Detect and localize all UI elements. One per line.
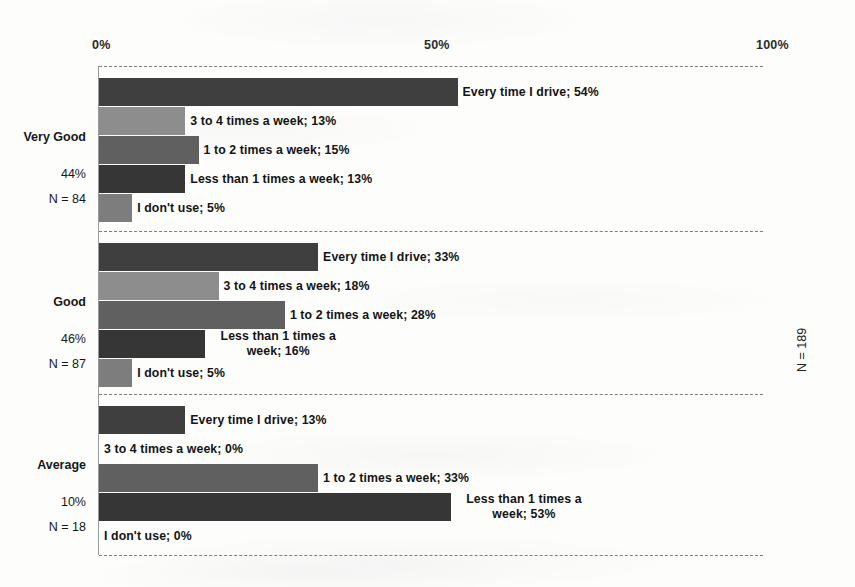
bar-row: 3 to 4 times a week; 0% <box>99 435 855 463</box>
bar[interactable] <box>99 406 185 434</box>
bar[interactable] <box>99 301 285 329</box>
bar-row: Every time I drive; 33% <box>99 243 855 271</box>
group-sample-size-label: N = 84 <box>8 190 86 208</box>
group-separator-line <box>99 394 763 395</box>
bar-value-label: Less than 1 times a week; 16% <box>205 329 344 360</box>
bar[interactable] <box>99 78 458 106</box>
x-axis-bottom-dashed-line <box>99 555 763 556</box>
group-share-label: 46% <box>8 330 86 348</box>
bar[interactable] <box>99 330 205 358</box>
bar[interactable] <box>99 165 185 193</box>
x-axis-tick-50: 50% <box>424 38 450 52</box>
x-axis-top-dashed-line <box>99 66 763 67</box>
bar[interactable] <box>99 272 219 300</box>
bar-row: 1 to 2 times a week; 28% <box>99 301 855 329</box>
bar-value-label: 1 to 2 times a week; 33% <box>318 471 469 485</box>
bar-value-label: 3 to 4 times a week; 0% <box>99 442 243 456</box>
group-sample-size-label: N = 18 <box>8 518 86 536</box>
x-axis-tick-100: 100% <box>756 38 789 52</box>
survey-bar-chart: 0% 50% 100% Very Good44%N = 84Every time… <box>0 0 855 587</box>
bar-row: I don't use; 0% <box>99 522 855 550</box>
bar-value-label: Less than 1 times a week; 13% <box>185 172 372 186</box>
bar-value-label: 3 to 4 times a week; 18% <box>219 279 370 293</box>
bar[interactable] <box>99 493 451 521</box>
bar-value-label: Less than 1 times a week; 53% <box>451 492 590 523</box>
group-share-label: 10% <box>8 493 86 511</box>
bar-value-label: I don't use; 5% <box>132 201 225 215</box>
bar-row: Less than 1 times a week; 16% <box>99 330 855 358</box>
bar[interactable] <box>99 243 318 271</box>
bar-row: Less than 1 times a week; 13% <box>99 165 855 193</box>
bar-value-label: Every time I drive; 13% <box>185 413 326 427</box>
bar-value-label: Every time I drive; 54% <box>458 85 599 99</box>
bar[interactable] <box>99 136 199 164</box>
total-sample-size-label: N = 189 <box>795 328 809 372</box>
x-axis-tick-labels: 0% 50% 100% <box>0 38 855 56</box>
bar[interactable] <box>99 464 318 492</box>
bar[interactable] <box>99 359 132 387</box>
group-separator-line <box>99 231 763 232</box>
bar-value-label: Every time I drive; 33% <box>318 250 459 264</box>
bar-row: 1 to 2 times a week; 15% <box>99 136 855 164</box>
bar-row: 3 to 4 times a week; 18% <box>99 272 855 300</box>
bar-row: 1 to 2 times a week; 33% <box>99 464 855 492</box>
bar-value-label: 1 to 2 times a week; 28% <box>285 308 436 322</box>
bar-value-label: I don't use; 5% <box>132 366 225 380</box>
bar-value-label: 1 to 2 times a week; 15% <box>199 143 350 157</box>
group-sample-size-label: N = 87 <box>8 355 86 373</box>
bar-value-label: 3 to 4 times a week; 13% <box>185 114 336 128</box>
bar-row: Every time I drive; 13% <box>99 406 855 434</box>
bar[interactable] <box>99 107 185 135</box>
group-share-label: 44% <box>8 165 86 183</box>
bar-row: Less than 1 times a week; 53% <box>99 493 855 521</box>
x-axis-tick-0: 0% <box>92 38 110 52</box>
group-name-label: Good <box>8 293 86 311</box>
bar-row: Every time I drive; 54% <box>99 78 855 106</box>
bar[interactable] <box>99 194 132 222</box>
bar-row: I don't use; 5% <box>99 194 855 222</box>
bar-value-label: I don't use; 0% <box>99 529 192 543</box>
bar-row: 3 to 4 times a week; 13% <box>99 107 855 135</box>
group-name-label: Average <box>8 456 86 474</box>
group-name-label: Very Good <box>8 128 86 146</box>
bar-row: I don't use; 5% <box>99 359 855 387</box>
